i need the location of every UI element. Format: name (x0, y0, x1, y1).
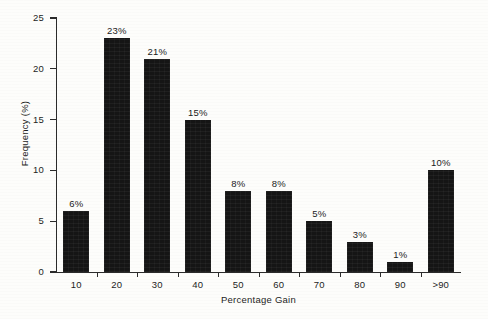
bar-value-label: 3% (353, 229, 367, 240)
bar-chart: 0510152025 102030405060708090>90 6%23%21… (0, 0, 488, 319)
x-tick-mark (259, 272, 260, 277)
y-tick-mark (50, 221, 57, 222)
x-tick-label: >90 (432, 279, 449, 290)
bar (347, 242, 373, 272)
y-tick-label: 25 (0, 12, 44, 23)
x-tick-label: 10 (71, 279, 82, 290)
y-axis-title: Frequency (%) (19, 84, 30, 184)
x-tick-mark (137, 272, 138, 277)
x-tick-label: 40 (192, 279, 203, 290)
x-tick-mark (178, 272, 179, 277)
bar (225, 191, 251, 272)
x-tick-label: 30 (152, 279, 163, 290)
bar-value-label: 21% (147, 46, 167, 57)
x-tick-mark (380, 272, 381, 277)
y-tick-label: 0 (0, 266, 44, 277)
y-axis-line (56, 18, 57, 272)
bar (144, 59, 170, 272)
x-tick-label: 80 (354, 279, 365, 290)
bar-value-label: 8% (231, 178, 245, 189)
bar (266, 191, 292, 272)
bar-value-label: 23% (107, 25, 127, 36)
x-tick-mark (421, 272, 422, 277)
bar-value-label: 1% (393, 249, 407, 260)
y-tick-mark (50, 17, 57, 18)
bar-value-label: 6% (69, 198, 83, 209)
y-tick-label: 20 (0, 63, 44, 74)
bar-value-label: 15% (188, 107, 208, 118)
bar-value-label: 10% (431, 157, 451, 168)
bar (63, 211, 89, 272)
bar (306, 221, 332, 272)
x-tick-label: 60 (273, 279, 284, 290)
x-tick-label: 90 (395, 279, 406, 290)
x-tick-mark (218, 272, 219, 277)
y-tick-mark (50, 271, 57, 272)
y-tick-label: 5 (0, 215, 44, 226)
x-axis-title: Percentage Gain (56, 294, 461, 305)
x-tick-label: 50 (233, 279, 244, 290)
bar-value-label: 8% (272, 178, 286, 189)
x-tick-mark (340, 272, 341, 277)
x-tick-mark (97, 272, 98, 277)
x-tick-label: 70 (314, 279, 325, 290)
bar (387, 262, 413, 272)
y-tick-mark (50, 68, 57, 69)
bar (428, 170, 454, 272)
bar-value-label: 5% (312, 208, 326, 219)
x-tick-mark (299, 272, 300, 277)
x-tick-label: 20 (111, 279, 122, 290)
bar (185, 120, 211, 272)
y-tick-mark (50, 119, 57, 120)
bar (104, 38, 130, 272)
y-tick-mark (50, 170, 57, 171)
